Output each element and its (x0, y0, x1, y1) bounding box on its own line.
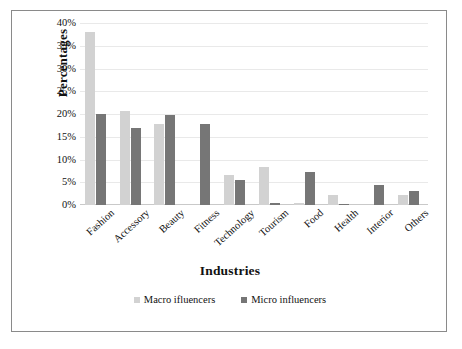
x-axis-label-text: Tourism (257, 207, 290, 239)
x-axis-label-text: Beauty (157, 207, 186, 235)
y-axis-tick-35: 35% (42, 41, 76, 51)
y-axis-tick-40: 40% (42, 18, 76, 28)
chart-frame: Percentages 0%5%10%15%20%25%30%35%40% Fa… (11, 10, 447, 332)
chart-legend: Macro ifluencersMicro influencers (12, 294, 448, 305)
y-axis-tick-25: 25% (42, 86, 76, 96)
legend-item-macro[interactable]: Macro ifluencers (134, 294, 215, 305)
x-axis-label-text: Health (332, 207, 360, 234)
bar-group-others (393, 23, 428, 205)
bar-tourism-micro[interactable] (270, 203, 280, 205)
bar-health-micro[interactable] (339, 204, 349, 205)
bar-group-technology (219, 23, 254, 205)
plot-area (80, 23, 428, 205)
y-axis-tick-30: 30% (42, 64, 76, 74)
y-axis-tick-10: 10% (42, 155, 76, 165)
y-axis-tick-0: 0% (42, 200, 76, 210)
x-axis-label-text: Fashion (85, 207, 117, 237)
legend-label: Macro ifluencers (144, 294, 215, 305)
legend-swatch-icon-micro (241, 297, 247, 303)
bar-group-beauty (150, 23, 185, 205)
y-axis-tick-labels: 0%5%10%15%20%25%30%35%40% (42, 23, 76, 205)
bar-fashion-micro[interactable] (96, 114, 106, 205)
bar-group-fitness (184, 23, 219, 205)
y-axis-tick-20: 20% (42, 109, 76, 119)
bar-group-health (324, 23, 359, 205)
x-axis-category-labels: FashionAccessoryBeautyFitnessTechnologyT… (80, 207, 428, 269)
x-axis-label-text: Others (402, 207, 430, 234)
bar-group-accessory (115, 23, 150, 205)
x-axis-title: Industries (12, 263, 448, 279)
bar-fashion-macro[interactable] (85, 32, 95, 205)
x-axis-label-text: Food (302, 207, 325, 230)
legend-item-micro[interactable]: Micro influencers (241, 294, 326, 305)
legend-swatch-icon-macro (134, 297, 140, 303)
y-axis-tick-5: 5% (42, 177, 76, 187)
x-axis-label-text: Interior (364, 207, 395, 236)
bar-group-food (289, 23, 324, 205)
x-axis-label-text: Fitness (192, 207, 221, 235)
y-axis-tick-15: 15% (42, 132, 76, 142)
bar-group-interior (358, 23, 393, 205)
legend-label: Micro influencers (251, 294, 326, 305)
bar-group-fashion (80, 23, 115, 205)
